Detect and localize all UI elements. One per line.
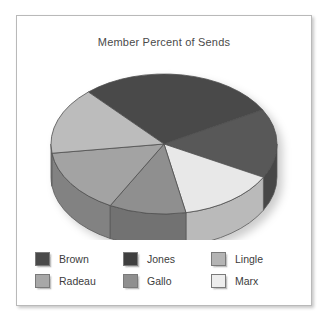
legend-swatch-jones	[123, 252, 138, 266]
chart-legend: Brown Jones Lingle Radeau Gallo Marx	[35, 248, 297, 296]
legend-label-brown: Brown	[59, 253, 89, 265]
legend-label-lingle: Lingle	[235, 253, 263, 265]
legend-label-radeau: Radeau	[59, 275, 96, 287]
pie-chart-svg	[17, 50, 311, 240]
legend-item-lingle[interactable]: Lingle	[211, 248, 297, 270]
chart-frame: Member Percent of Sends Brown Jones Ling…	[16, 15, 312, 306]
legend-swatch-brown	[35, 252, 50, 266]
legend-item-gallo[interactable]: Gallo	[123, 270, 209, 292]
legend-item-marx[interactable]: Marx	[211, 270, 297, 292]
legend-item-brown[interactable]: Brown	[35, 248, 121, 270]
legend-label-gallo: Gallo	[147, 275, 172, 287]
legend-item-radeau[interactable]: Radeau	[35, 270, 121, 292]
chart-title: Member Percent of Sends	[17, 36, 311, 48]
legend-swatch-gallo	[123, 274, 138, 288]
legend-swatch-radeau	[35, 274, 50, 288]
legend-label-jones: Jones	[147, 253, 175, 265]
pie-chart	[17, 50, 311, 240]
legend-label-marx: Marx	[235, 275, 258, 287]
legend-swatch-lingle	[211, 252, 226, 266]
legend-item-jones[interactable]: Jones	[123, 248, 209, 270]
legend-swatch-marx	[211, 274, 226, 288]
